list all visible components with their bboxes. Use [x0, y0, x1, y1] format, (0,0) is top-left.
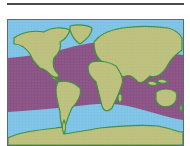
map-svg	[8, 20, 183, 145]
map-texture	[8, 20, 183, 145]
world-map	[7, 19, 184, 146]
header-rule	[7, 3, 184, 5]
